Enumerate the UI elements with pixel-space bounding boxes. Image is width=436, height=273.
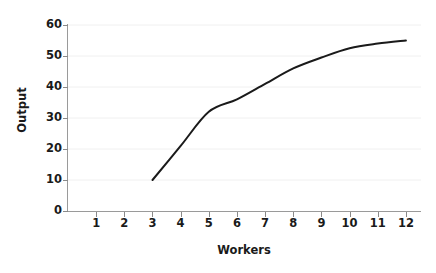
y-tick-mark [63, 87, 68, 88]
x-tick-mark [293, 212, 294, 217]
series-line [152, 41, 405, 181]
x-tick-mark [237, 212, 238, 217]
production-curve [68, 25, 420, 211]
x-axis-title: Workers [68, 243, 420, 257]
x-tick-label: 2 [109, 218, 139, 230]
x-tick-mark [265, 212, 266, 217]
y-tick-mark [63, 180, 68, 181]
x-tick-label: 4 [166, 218, 196, 230]
chart-screenshot: 0102030405060 123456789101112 Output Wor… [0, 0, 436, 273]
x-tick-label: 1 [81, 218, 111, 230]
x-tick-mark [181, 212, 182, 217]
y-axis-tick-labels: 0102030405060 [34, 0, 62, 273]
x-tick-mark [124, 212, 125, 217]
x-tick-mark [350, 212, 351, 217]
plot-area [68, 25, 420, 211]
x-tick-label: 7 [250, 218, 280, 230]
x-tick-mark [96, 212, 97, 217]
y-axis-title: Output [15, 80, 29, 140]
x-tick-label: 8 [278, 218, 308, 230]
y-tick-label: 50 [36, 50, 62, 62]
x-tick-label: 5 [194, 218, 224, 230]
y-tick-mark [63, 56, 68, 57]
y-tick-label: 60 [36, 19, 62, 31]
x-tick-label: 12 [391, 218, 421, 230]
x-tick-label: 11 [363, 218, 393, 230]
x-axis-line [67, 211, 421, 212]
x-tick-label: 9 [306, 218, 336, 230]
x-tick-mark [321, 212, 322, 217]
x-tick-mark [152, 212, 153, 217]
y-tick-mark [63, 118, 68, 119]
y-tick-label: 30 [36, 112, 62, 124]
y-tick-mark [63, 25, 68, 26]
x-tick-mark [209, 212, 210, 217]
x-tick-label: 10 [335, 218, 365, 230]
x-tick-mark [378, 212, 379, 217]
y-tick-label: 10 [36, 174, 62, 186]
y-tick-mark [63, 149, 68, 150]
x-tick-label: 3 [137, 218, 167, 230]
y-tick-mark [63, 211, 68, 212]
y-tick-label: 20 [36, 143, 62, 155]
y-tick-label: 40 [36, 81, 62, 93]
x-tick-mark [406, 212, 407, 217]
y-tick-label: 0 [36, 205, 62, 217]
x-tick-label: 6 [222, 218, 252, 230]
